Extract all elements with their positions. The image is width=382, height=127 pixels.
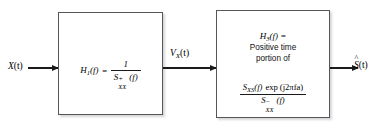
h3-transfer-label: H3(f)	[260, 31, 278, 41]
block-diagram: X(t) H1(f) = 1 S+XX(f) VX(t) H3(f) = Po	[0, 0, 382, 127]
intermediate-arrow	[163, 67, 216, 69]
h3-denominator: S−XX(f)	[240, 94, 307, 106]
h1-fraction: 1 S+XX(f)	[111, 59, 141, 83]
h1-denominator-subscript: XX	[118, 83, 126, 90]
h1-equation: H1(f) = 1 S+XX(f)	[59, 59, 162, 83]
h3-equals-sign: =	[280, 31, 286, 41]
input-signal-label: X(t)	[8, 62, 23, 72]
output-signal-hat: ^	[354, 55, 358, 63]
h3-description-line-2: portion of	[217, 53, 329, 64]
intermediate-signal-arg: (t)	[180, 48, 189, 58]
h3-exp-argument: (j2πfa)	[280, 82, 303, 92]
block-whitening-filter: H1(f) = 1 S+XX(f)	[58, 12, 163, 115]
h3-numerator: SXS(f)exp(j2πfa)	[240, 83, 307, 93]
h3-fraction: SXS(f)exp(j2πfa) S−XX(f)	[217, 83, 329, 106]
h3-equation-header: H3(f) =	[217, 31, 329, 42]
h3-exp-operator: exp	[265, 82, 277, 92]
h3-denominator-superscript: −	[266, 98, 270, 106]
input-signal-arg: (t)	[14, 61, 23, 71]
h1-transfer-label: H1(f)	[80, 65, 98, 76]
output-signal-base-wrap: ^S	[354, 61, 359, 71]
input-arrow	[28, 67, 58, 69]
h3-description: Positive time portion of	[217, 42, 329, 64]
h3-denominator-subscript: XX	[266, 106, 274, 113]
h1-equals-sign: =	[102, 66, 108, 76]
output-signal-label: ^S(t)	[354, 61, 368, 71]
intermediate-signal-label: VX(t)	[170, 49, 189, 60]
h3-description-line-1: Positive time	[217, 42, 329, 53]
h1-numerator: 1	[111, 59, 141, 69]
block-causal-part-filter: H3(f) = Positive time portion of SXS(f)e…	[216, 10, 330, 118]
h1-denominator-superscript: +	[119, 75, 123, 83]
output-signal-arg: (t)	[359, 60, 368, 70]
h1-denominator: S+XX(f)	[111, 70, 141, 82]
